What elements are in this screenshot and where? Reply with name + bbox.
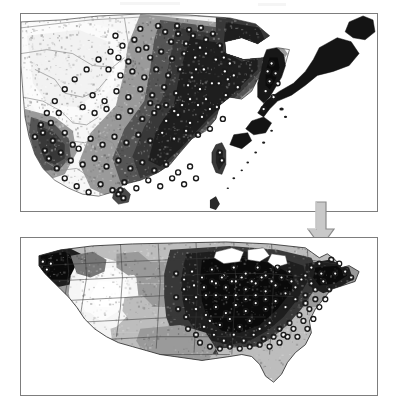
east-asia-map-panel <box>20 13 378 212</box>
united-states-map-graphic <box>21 238 377 395</box>
united-states-map-panel <box>20 237 378 396</box>
scan-artifact <box>258 3 286 6</box>
united-states-raster <box>21 238 377 395</box>
scan-artifact <box>120 2 180 5</box>
east-asia-raster <box>21 14 377 211</box>
east-asia-map-graphic <box>21 14 377 211</box>
figure-root <box>0 0 396 410</box>
